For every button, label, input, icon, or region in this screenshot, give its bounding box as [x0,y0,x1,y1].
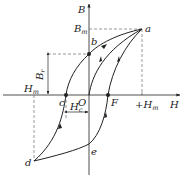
hm-pos-label: +Hm [135,99,158,112]
hysteresis-diagram: B H O a b c F e d Bm Br Hm +Hm Hc [0,0,187,175]
point-b-marker [87,52,91,56]
point-d-label: d [25,157,31,168]
arrow-ab [101,44,107,49]
bm-label: Bm [73,23,88,36]
point-F-label: F [110,97,119,108]
point-a-label: a [145,23,151,34]
hm-neg-label: Hm [23,83,39,96]
arrow-initial [99,56,102,62]
svg-text:Br: Br [34,69,47,81]
point-c-label: c [59,97,65,108]
point-F-marker [106,93,110,97]
br-label: Br [34,69,47,81]
arrow-Fa [117,56,120,62]
b-axis-label: B [77,4,85,15]
h-axis-label: H [169,99,179,110]
point-b-label: b [91,36,97,47]
point-e-label: e [91,146,97,157]
